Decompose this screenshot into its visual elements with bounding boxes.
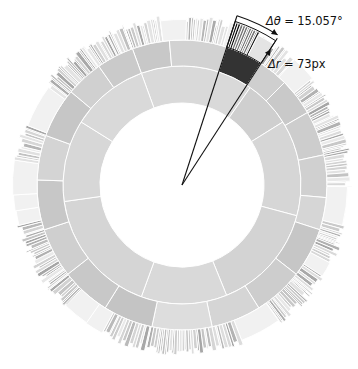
delta-theta-label: Δθ = 15.057° xyxy=(266,14,343,28)
ring-segment xyxy=(298,155,327,198)
ring-segment xyxy=(160,19,186,41)
ring-segment xyxy=(141,261,226,304)
delta-r-symbol: Δr xyxy=(268,57,280,71)
sunburst-chart xyxy=(0,0,358,369)
delta-theta-value: = 15.057° xyxy=(281,14,343,28)
ring-segment xyxy=(13,194,38,211)
ring-segment xyxy=(12,160,38,195)
delta-theta-symbol: Δθ xyxy=(266,14,281,28)
ring-segment xyxy=(323,186,348,225)
delta-r-label: Δr = 73px xyxy=(268,57,325,71)
ring-segment xyxy=(152,301,212,330)
delta-r-value: = 73px xyxy=(280,57,325,71)
